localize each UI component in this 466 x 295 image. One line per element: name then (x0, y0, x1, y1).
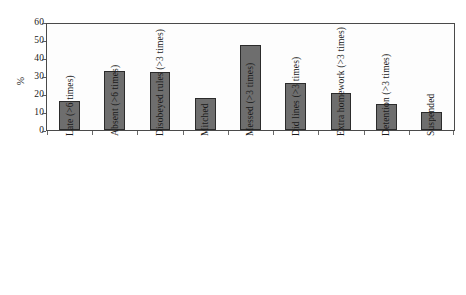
x-axis-category-label: Absent (>6 times) (110, 65, 120, 136)
x-axis-label-cell: Disobeyed rules (>3 times) (137, 136, 182, 256)
x-axis-category-label: Disobeyed rules (>3 times) (155, 29, 165, 136)
x-axis-label-cell: Extra homework (>3 times) (318, 136, 363, 256)
x-axis-label-cell: Absent (>6 times) (92, 136, 137, 256)
x-axis-label-cell: Detention (>3 times) (364, 136, 409, 256)
x-axis-category-label: Suspended (426, 93, 436, 136)
x-axis-category-label: Messed (>3 times) (245, 63, 255, 136)
x-axis-category-labels: Late (>6 times)Absent (>6 times)Disobeye… (47, 136, 454, 256)
x-axis-category-label: Mitched (200, 103, 210, 136)
x-axis-category-label: Late (>6 times) (65, 75, 75, 136)
x-axis-category-label: Detention (>3 times) (381, 54, 391, 136)
x-axis-label-cell: Suspended (409, 136, 454, 256)
x-axis-label-cell: Mitched (183, 136, 228, 256)
x-axis-label-cell: Did lines (>3 times) (273, 136, 318, 256)
x-axis-label-cell: Messed (>3 times) (228, 136, 273, 256)
bar-chart-figure: % 0102030405060 Late (>6 times)Absent (>… (0, 0, 466, 295)
x-axis-label-cell: Late (>6 times) (47, 136, 92, 256)
x-axis-category-label: Extra homework (>3 times) (336, 27, 346, 136)
y-axis-tick-mark (42, 131, 46, 132)
x-axis-category-label: Did lines (>3 times) (291, 57, 301, 136)
